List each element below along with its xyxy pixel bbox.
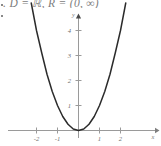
y-axis-label: y [71, 11, 75, 18]
y-tick-label-4: 4 [68, 27, 72, 34]
math-figure: . D = ℝ, R = (0, ∞) -2 -1 1 2 1 2 3 4 x … [0, 0, 161, 146]
y-tick-label-2: 2 [68, 77, 72, 84]
x-tick-label-neg2: -2 [34, 135, 40, 142]
y-tick-label-1: 1 [68, 102, 71, 109]
x-axis-label: x [151, 133, 155, 140]
x-tick-label-neg1: -1 [55, 135, 61, 142]
parabola-plot: -2 -1 1 2 1 2 3 4 x y [0, 0, 161, 146]
x-tick-label-pos2: 2 [119, 135, 123, 142]
y-tick-label-3: 3 [67, 52, 72, 59]
x-axis-arrowhead [155, 128, 160, 133]
x-tick-label-pos1: 1 [98, 135, 101, 142]
y-axis-arrowhead [76, 14, 81, 19]
